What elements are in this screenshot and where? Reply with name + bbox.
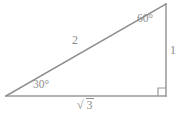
geometry-figure: 30° 60° 2 1 √ 3 <box>0 0 180 114</box>
radical-sign-icon: √ <box>77 98 84 112</box>
angle-label-60: 60° <box>137 13 153 25</box>
radicand-value: 3 <box>86 98 94 111</box>
angle-label-30: 30° <box>33 79 49 91</box>
right-angle-marker-icon <box>158 88 166 96</box>
radical-expression: √ 3 <box>77 98 94 111</box>
side-label-hypotenuse: 2 <box>72 34 78 46</box>
side-label-vertical: 1 <box>170 44 176 56</box>
side-label-base: √ 3 <box>77 98 94 111</box>
